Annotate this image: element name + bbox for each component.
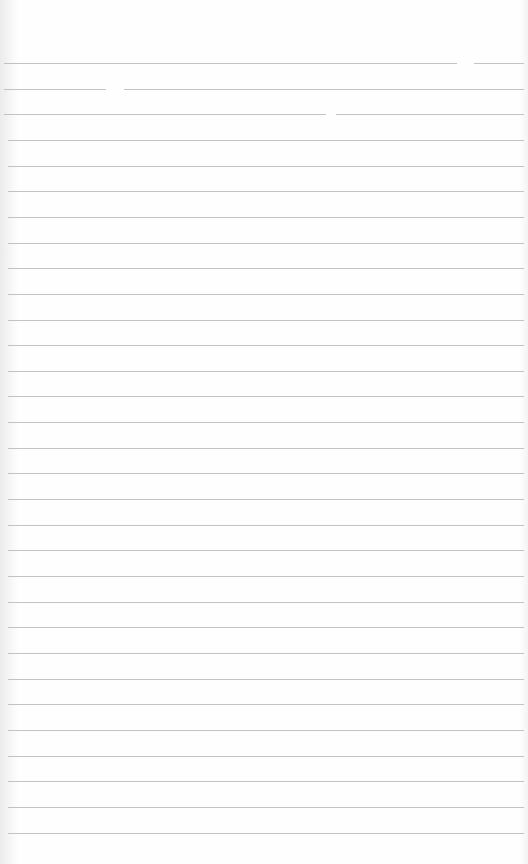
ruled-line xyxy=(336,114,524,115)
ruled-line xyxy=(8,166,524,167)
page-edge-shadow-left xyxy=(0,0,18,864)
ruled-line xyxy=(8,243,524,244)
ruled-line xyxy=(8,294,524,295)
ruled-line xyxy=(124,89,524,90)
ruled-line xyxy=(8,345,524,346)
notebook-page xyxy=(0,0,528,864)
ruled-line xyxy=(8,576,524,577)
ruled-line xyxy=(8,396,524,397)
ruled-line xyxy=(4,114,326,115)
ruled-line xyxy=(8,807,524,808)
ruled-line xyxy=(8,602,524,603)
ruled-line xyxy=(8,627,524,628)
ruled-line xyxy=(8,268,524,269)
ruled-line xyxy=(8,448,524,449)
ruled-line xyxy=(4,89,106,90)
ruled-line xyxy=(8,730,524,731)
ruled-line xyxy=(8,217,524,218)
ruled-line xyxy=(8,422,524,423)
ruled-line xyxy=(8,473,524,474)
ruled-line xyxy=(8,499,524,500)
ruled-line xyxy=(8,371,524,372)
ruled-line xyxy=(4,63,457,64)
ruled-line xyxy=(8,550,524,551)
ruled-line xyxy=(8,140,524,141)
ruled-line xyxy=(8,320,524,321)
ruled-line xyxy=(8,525,524,526)
ruled-line xyxy=(8,679,524,680)
ruled-line xyxy=(8,833,524,834)
ruled-line xyxy=(8,191,524,192)
ruled-line xyxy=(8,704,524,705)
ruled-line xyxy=(474,63,524,64)
ruled-line xyxy=(8,756,524,757)
ruled-line xyxy=(8,653,524,654)
page-edge-shadow-right xyxy=(520,0,528,864)
ruled-line xyxy=(8,781,524,782)
